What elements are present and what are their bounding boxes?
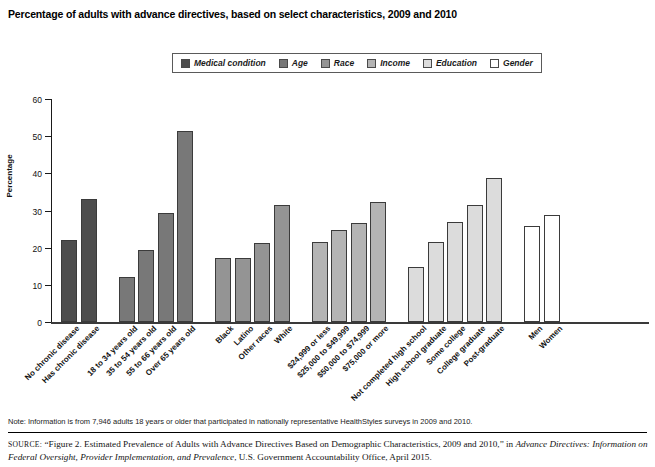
y-tick-label: 30 [18,206,42,216]
bar [370,202,386,322]
bar [254,243,270,322]
chart-plot-area: Percentage 0102030405060 No chronic dise… [0,0,655,467]
y-tick-label: 60 [18,95,42,105]
y-axis-title: Percentage [5,184,14,198]
source-quote: “Figure 2. Estimated Prevalence of Adult… [44,439,515,449]
bars-container [51,99,649,322]
x-axis-label: Black [214,324,235,345]
footer-divider [8,432,647,433]
source-prefix: SOURCE: [8,440,42,449]
bar [331,230,347,322]
figure-note: Note: Information is from 7,946 adults 1… [8,417,648,426]
bar [486,178,502,322]
source-tail: , U.S. Government Accountability Office,… [234,452,432,462]
bar [447,222,463,322]
bar [235,258,251,322]
bar [61,240,77,322]
bar [544,215,560,322]
y-tick-label: 20 [18,243,42,253]
bar [138,250,154,322]
x-axis-label: White [272,324,294,346]
y-tick-label: 0 [18,318,42,328]
bar [81,199,97,322]
figure-source: SOURCE: “Figure 2. Estimated Prevalence … [8,438,650,463]
y-tick-label: 40 [18,169,42,179]
bar [524,226,540,322]
bar [351,223,367,322]
bar [274,205,290,322]
bar [158,213,174,322]
bar [177,131,193,322]
y-tick-label: 50 [18,132,42,142]
bar [215,258,231,322]
bar [408,267,424,322]
bar [428,242,444,322]
y-tick-label: 10 [18,280,42,290]
x-axis-labels: No chronic diseaseHas chronic disease18 … [51,324,655,404]
bar [467,205,483,322]
bar [119,277,135,322]
bar [312,242,328,322]
